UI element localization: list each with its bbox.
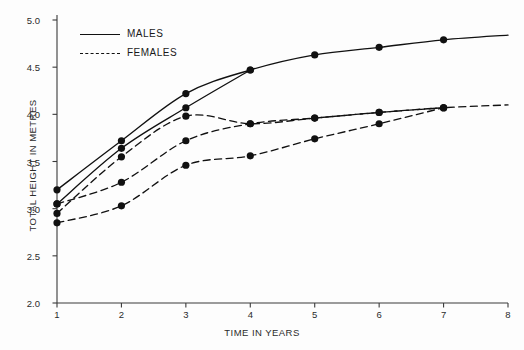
y-axis-title: TOTAL HEIGHT IN METRES xyxy=(27,56,38,276)
chart-figure: 2.02.53.03.54.04.55.0 12345678 TOTAL HEI… xyxy=(0,0,524,350)
data-point xyxy=(311,135,318,142)
x-tick-label: 6 xyxy=(369,309,389,320)
x-tick-label: 3 xyxy=(176,309,196,320)
x-tick-label: 5 xyxy=(305,309,325,320)
data-point xyxy=(53,186,60,193)
data-point xyxy=(118,137,125,144)
data-point xyxy=(53,200,60,207)
data-point xyxy=(182,104,189,111)
y-tick-label: 2.0 xyxy=(14,298,40,309)
data-point xyxy=(247,120,254,127)
legend-line-dashed-icon xyxy=(80,48,120,58)
data-point xyxy=(376,44,383,51)
y-tick-label: 5.0 xyxy=(14,15,40,26)
series-line xyxy=(57,70,250,204)
axis-ticks xyxy=(53,20,509,308)
data-point xyxy=(311,51,318,58)
legend-item-females: FEMALES xyxy=(80,43,177,62)
x-axis-title: TIME IN YEARS xyxy=(0,327,524,338)
legend-label-females: FEMALES xyxy=(127,47,177,58)
x-axis-tick-labels: 12345678 xyxy=(0,309,524,325)
data-point xyxy=(440,104,447,111)
data-point xyxy=(247,152,254,159)
x-tick-label: 4 xyxy=(240,309,260,320)
data-point xyxy=(376,120,383,127)
data-point-markers xyxy=(53,36,447,226)
legend-item-males: MALES xyxy=(80,24,177,43)
series-line xyxy=(57,105,508,213)
data-point xyxy=(118,202,125,209)
data-point xyxy=(440,36,447,43)
data-point xyxy=(118,145,125,152)
legend-label-males: MALES xyxy=(127,28,163,39)
data-point xyxy=(118,153,125,160)
data-point xyxy=(118,179,125,186)
x-tick-label: 2 xyxy=(111,309,131,320)
x-tick-label: 7 xyxy=(434,309,454,320)
x-tick-label: 1 xyxy=(47,309,67,320)
chart-legend: MALES FEMALES xyxy=(80,24,177,62)
data-point xyxy=(53,210,60,217)
plot-canvas xyxy=(0,0,524,350)
data-point xyxy=(182,137,189,144)
data-point xyxy=(182,162,189,169)
legend-line-solid-icon xyxy=(80,29,120,39)
data-point xyxy=(247,66,254,73)
x-tick-label: 8 xyxy=(498,309,518,320)
data-point xyxy=(182,90,189,97)
data-point xyxy=(53,219,60,226)
data-point xyxy=(376,109,383,116)
data-series-lines xyxy=(57,35,508,223)
data-point xyxy=(311,115,318,122)
data-point xyxy=(182,113,189,120)
